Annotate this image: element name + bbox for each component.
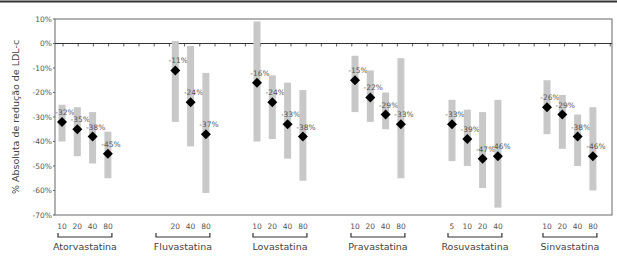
plot-area: 10%0%-10%-20%-30%-40%-50%-60%-70%% Absol…	[10, 15, 612, 253]
value-label: -29%	[379, 101, 398, 110]
group-label: Atorvastatina	[53, 241, 117, 252]
value-label: -24%	[266, 88, 285, 97]
y-tick-label: -70%	[33, 211, 52, 220]
value-label: -46%	[586, 142, 605, 151]
value-label: -33%	[445, 110, 464, 119]
value-label: -45%	[101, 140, 120, 149]
value-label: -37%	[199, 120, 218, 129]
dose-label: 10	[350, 222, 360, 231]
dose-label: 40	[381, 222, 391, 231]
group-label: Rosuvastatina	[441, 241, 508, 252]
y-tick-label: 10%	[35, 15, 52, 24]
dose-label: 40	[573, 222, 583, 231]
value-label: -39%	[461, 125, 480, 134]
y-tick-label: -10%	[33, 64, 52, 73]
value-label: -33%	[281, 110, 300, 119]
y-tick-label: 0%	[40, 39, 52, 48]
value-label: -11%	[169, 56, 188, 65]
y-tick-label: -60%	[33, 186, 52, 195]
group-label: Lovastatina	[252, 241, 307, 252]
value-label: -24%	[184, 88, 203, 97]
group-bracket	[58, 233, 112, 237]
value-label: -16%	[250, 69, 269, 78]
dose-label: 80	[588, 222, 598, 231]
dose-label: 5	[450, 222, 455, 231]
y-axis-label: % Absoluta de redução de LDL-c	[10, 40, 21, 194]
group-label: Sinvastatina	[541, 241, 600, 252]
value-label: -38%	[296, 123, 315, 132]
value-label: -38%	[86, 123, 105, 132]
group-bracket	[253, 233, 307, 237]
dose-label: 80	[298, 222, 308, 231]
dose-label: 40	[186, 222, 196, 231]
group-bracket	[543, 233, 597, 237]
group-label: Pravastatina	[348, 241, 407, 252]
dose-label: 40	[88, 222, 98, 231]
value-label: -15%	[348, 66, 367, 75]
dose-label: 40	[283, 222, 293, 231]
dose-label: 20	[558, 222, 568, 231]
value-label: -29%	[556, 101, 575, 110]
value-label: -46%	[491, 142, 510, 151]
y-tick-label: -50%	[33, 162, 52, 171]
y-tick-label: -30%	[33, 113, 52, 122]
value-label: -38%	[571, 123, 590, 132]
value-label: -22%	[364, 83, 383, 92]
group-bracket	[156, 233, 210, 237]
dose-label: 10	[463, 222, 473, 231]
range-bar	[449, 100, 456, 161]
group-bracket	[351, 233, 405, 237]
dose-label: 20	[171, 222, 181, 231]
dose-label: 10	[252, 222, 262, 231]
dose-label: 20	[478, 222, 488, 231]
dose-label: 40	[493, 222, 503, 231]
dose-label: 10	[57, 222, 67, 231]
plot-frame	[55, 19, 612, 215]
dose-label: 20	[73, 222, 83, 231]
dose-label: 20	[366, 222, 376, 231]
dose-label: 80	[201, 222, 211, 231]
ldl-reduction-chart: 10%0%-10%-20%-30%-40%-50%-60%-70%% Absol…	[0, 0, 617, 261]
y-tick-label: -20%	[33, 88, 52, 97]
dose-label: 80	[103, 222, 113, 231]
value-label: -33%	[394, 110, 413, 119]
dose-label: 80	[396, 222, 406, 231]
y-tick-label: -40%	[33, 137, 52, 146]
range-bar	[172, 41, 179, 122]
group-bracket	[448, 233, 502, 237]
group-label: Fluvastatina	[154, 241, 212, 252]
dose-label: 20	[268, 222, 278, 231]
dose-label: 10	[542, 222, 552, 231]
